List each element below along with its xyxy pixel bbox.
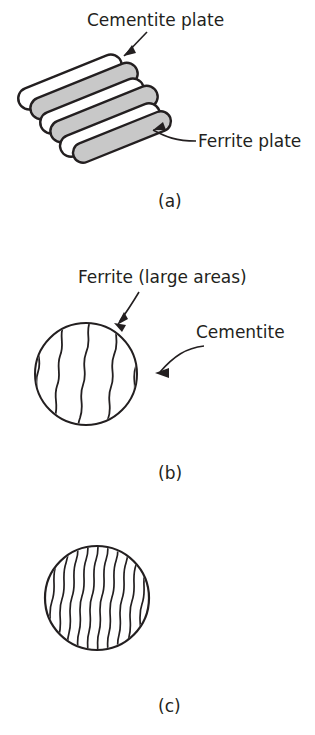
cementite-leader — [155, 346, 204, 378]
panel-b-caption: (b) — [158, 463, 182, 483]
panel-b: Ferrite (large areas) Cementite (b) — [35, 267, 285, 483]
panel-a: Cementite plate Ferrite plate (a) — [15, 10, 301, 211]
panel-c: (c) — [0, 524, 199, 716]
plate-stack — [15, 51, 174, 166]
cementite-plate-label: Cementite plate — [87, 10, 224, 30]
panel-a-caption: (a) — [158, 191, 182, 211]
pearlite-figure: Cementite plate Ferrite plate (a) Ferrit… — [0, 0, 315, 735]
ferrite-plate-label: Ferrite plate — [198, 131, 301, 151]
panel-c-caption: (c) — [158, 696, 181, 716]
ferrite-large-areas-leader — [114, 292, 139, 332]
cementite-label: Cementite — [196, 322, 285, 342]
cementite-plate-leader — [124, 32, 147, 56]
ferrite-large-areas-label: Ferrite (large areas) — [78, 267, 247, 287]
coarse-pearlite-circle — [35, 323, 137, 425]
